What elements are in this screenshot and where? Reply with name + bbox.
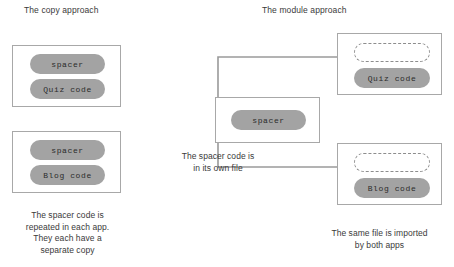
left-quiz-app-box: spacer Quiz code [12,45,121,107]
right-blog-imported-spacer-placeholder [354,153,430,172]
left-blog-app-box: spacer Blog code [12,131,121,193]
spacer-module-caption: The spacer code is in its own file [163,151,273,174]
spacer-module-pill: spacer [231,110,306,130]
left-caption-line-3: They each have a [5,233,130,245]
spacer-caption-line-1: The spacer code is [163,151,273,163]
right-caption-line-2: by both apps [305,240,454,252]
right-caption: The same file is imported by both apps [305,228,454,251]
right-quiz-app-box: Quiz code [337,33,442,95]
right-caption-line-1: The same file is imported [305,228,454,240]
spacer-caption-line-2: in its own file [163,163,273,175]
left-quiz-code-pill: Quiz code [30,79,105,99]
left-caption: The spacer code is repeated in each app.… [5,210,130,256]
spacer-module-box: spacer [215,97,320,143]
right-quiz-code-pill: Quiz code [354,68,430,88]
diagram-canvas: The copy approach The module approach sp… [0,0,454,267]
left-caption-line-2: repeated in each app. [5,222,130,234]
right-blog-app-box: Blog code [337,143,442,205]
right-blog-code-pill: Blog code [354,178,430,198]
left-caption-line-1: The spacer code is [5,210,130,222]
right-quiz-imported-spacer-placeholder [354,43,430,62]
left-blog-code-pill: Blog code [30,165,105,185]
left-blog-spacer-pill: spacer [30,140,105,160]
left-quiz-spacer-pill: spacer [30,54,105,74]
left-caption-line-4: separate copy [5,245,130,257]
